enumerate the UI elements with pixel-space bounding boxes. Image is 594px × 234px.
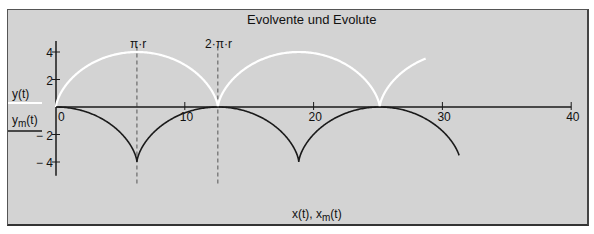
- x-tick-label-40: 40: [566, 110, 580, 124]
- y-tick-label--4: − 4: [36, 156, 53, 170]
- plot-area: 010203040− 4− 224: [0, 0, 594, 234]
- x-tick-label-20: 20: [309, 110, 323, 124]
- marker-label-pi-r: π·r: [130, 37, 146, 51]
- x-tick-label-30: 30: [437, 110, 451, 124]
- legend-label-ym: ym(t): [12, 113, 38, 129]
- y-tick-label--2: − 2: [36, 129, 53, 143]
- evolute-curve: [56, 107, 459, 162]
- x-tick-label-0: 0: [58, 110, 65, 124]
- x-axis-label: x(t), xm(t): [292, 207, 342, 223]
- involute-curve: [56, 52, 426, 107]
- legend-label-y: y(t): [12, 87, 29, 101]
- y-tick-label-2: 2: [46, 74, 53, 88]
- y-tick-label-4: 4: [46, 46, 53, 60]
- chart-title: Evolvente und Evolute: [247, 12, 376, 27]
- marker-label-2pi-r: 2·π·r: [205, 37, 232, 51]
